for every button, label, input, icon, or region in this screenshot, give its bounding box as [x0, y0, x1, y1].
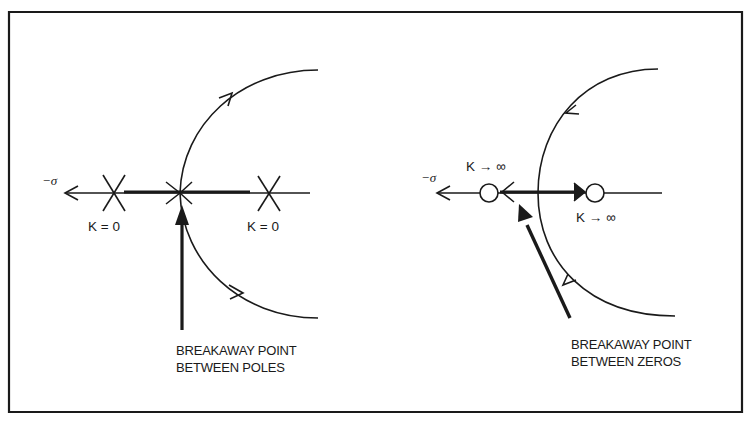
zero-label: K → ∞	[576, 210, 616, 225]
locus-curve	[180, 70, 318, 318]
pole-label: K = 0	[88, 219, 120, 234]
zero-o-icon	[480, 184, 498, 202]
pole-label: K = 0	[247, 219, 279, 234]
zero-label: K → ∞	[466, 159, 506, 174]
direction-arrow-icon	[574, 183, 585, 201]
pointer-arrow-head-icon	[175, 205, 189, 225]
root-locus-figure: −σ K = 0 K = 0 BREAKAWAY POINT BETWEEN P…	[0, 0, 750, 423]
right-panel-zeros: −σ K → ∞ K → ∞ BREAKAWAY POINT BETWEEN Z…	[421, 69, 692, 369]
pointer-arrow	[527, 225, 570, 318]
caption-line: BREAKAWAY POINT	[571, 337, 692, 352]
zero-o-icon	[586, 184, 604, 202]
left-panel-poles: −σ K = 0 K = 0 BREAKAWAY POINT BETWEEN P…	[42, 70, 318, 375]
caption-line: BETWEEN ZEROS	[571, 354, 682, 369]
axis-label-sigma: −σ	[421, 170, 437, 185]
caption-line: BREAKAWAY POINT	[176, 343, 297, 358]
direction-arrow-icon	[219, 93, 232, 106]
caption-line: BETWEEN POLES	[176, 360, 285, 375]
axis-label-sigma: −σ	[42, 173, 58, 188]
pointer-arrow-head-icon	[518, 204, 533, 222]
